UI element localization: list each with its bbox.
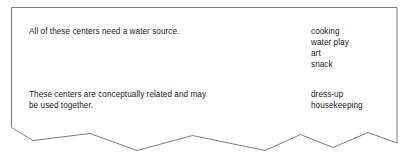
center-list: cooking water play art snack [311,26,397,70]
list-item: snack [311,59,397,70]
center-list: dress-up housekeeping [311,89,397,111]
list-item: water play [311,37,397,48]
row-description: All of these centers need a water source… [29,26,279,37]
list-item: housekeeping [311,100,397,111]
panel-content: All of these centers need a water source… [0,0,408,157]
list-item: cooking [311,26,397,37]
list-item: art [311,48,397,59]
torn-paper-panel: All of these centers need a water source… [0,0,408,157]
row-description: These centers are conceptually related a… [29,89,279,111]
list-item: dress-up [311,89,397,100]
